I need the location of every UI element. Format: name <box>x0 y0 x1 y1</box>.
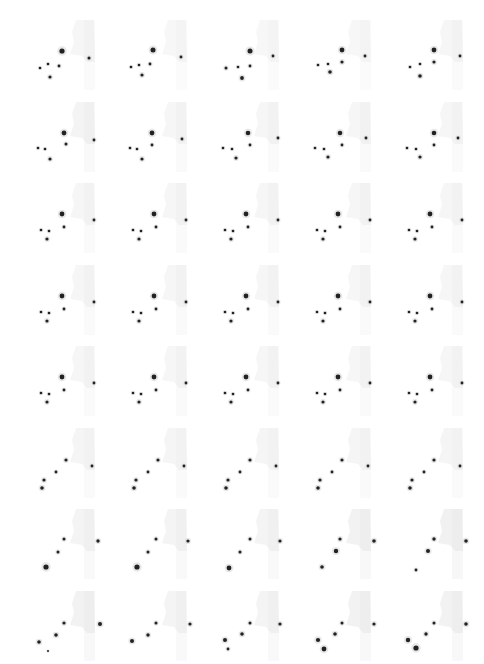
microscopy-frame <box>382 259 474 341</box>
microscopy-frame <box>290 503 382 585</box>
microscopy-frame <box>290 585 382 664</box>
microscopy-frame <box>106 14 198 96</box>
microscopy-frame <box>198 177 290 259</box>
microscopy-frame <box>106 503 198 585</box>
microscopy-frame <box>382 422 474 504</box>
microscopy-frame <box>290 259 382 341</box>
microscopy-frame <box>382 503 474 585</box>
microscopy-frame <box>290 96 382 178</box>
microscopy-frame <box>14 177 106 259</box>
microscopy-frame <box>14 585 106 664</box>
microscopy-frame <box>290 177 382 259</box>
microscopy-frame <box>106 340 198 422</box>
microscopy-frame <box>382 96 474 178</box>
microscopy-frame <box>198 422 290 504</box>
microscopy-frame <box>14 422 106 504</box>
microscopy-frame <box>198 96 290 178</box>
microscopy-frame <box>198 259 290 341</box>
microscopy-frame <box>198 503 290 585</box>
microscopy-frame <box>14 96 106 178</box>
microscopy-frame <box>290 422 382 504</box>
microscopy-frame <box>198 14 290 96</box>
microscopy-frame <box>106 177 198 259</box>
microscopy-frame <box>382 585 474 664</box>
microscopy-frame <box>382 14 474 96</box>
microscopy-frame <box>290 14 382 96</box>
microscopy-frame <box>14 259 106 341</box>
microscopy-frame <box>14 503 106 585</box>
microscopy-frame <box>106 422 198 504</box>
microscopy-montage-grid <box>14 14 474 664</box>
microscopy-frame <box>14 14 106 96</box>
microscopy-frame <box>106 585 198 664</box>
microscopy-frame <box>382 177 474 259</box>
microscopy-frame <box>290 340 382 422</box>
microscopy-frame <box>198 585 290 664</box>
microscopy-frame <box>198 340 290 422</box>
microscopy-frame <box>106 96 198 178</box>
microscopy-frame <box>106 259 198 341</box>
microscopy-frame <box>14 340 106 422</box>
microscopy-frame <box>382 340 474 422</box>
